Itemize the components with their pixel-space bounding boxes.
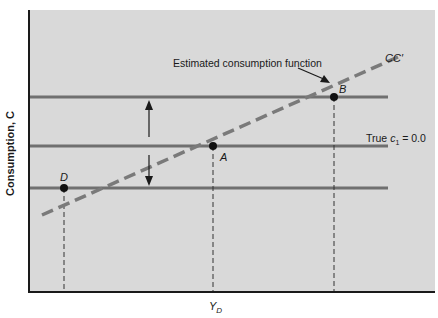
cc-prime-label: CC′ <box>385 52 404 64</box>
point-b <box>330 93 338 101</box>
point-a-label: A <box>219 151 227 163</box>
consumption-function-diagram: A B D Estimated consumption function CC′… <box>0 0 438 318</box>
point-b-label: B <box>339 83 346 95</box>
point-d <box>60 184 68 192</box>
true-line-label-suffix: = 0.0 <box>399 132 426 144</box>
x-tick-sub: D <box>216 306 222 315</box>
plot-area <box>29 10 435 292</box>
true-line-label-prefix: True <box>366 132 390 144</box>
y-axis-label: Consumption, C <box>4 111 16 196</box>
point-a <box>209 142 217 150</box>
point-d-label: D <box>60 171 68 183</box>
estimated-function-label: Estimated consumption function <box>173 57 322 69</box>
x-axis-tick-yd: YD <box>209 300 222 315</box>
